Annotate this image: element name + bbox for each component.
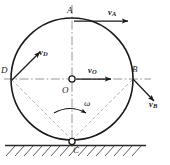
velocity-subscript-d: D	[43, 50, 48, 57]
velocity-label-d: vD	[39, 48, 48, 58]
point-label-c: C	[73, 146, 79, 155]
point-marker-o	[69, 76, 75, 82]
point-label-a: A	[67, 6, 73, 15]
rolling-wheel-diagram: A D B O C vA vO vD vB ω	[0, 0, 170, 165]
point-label-o: O	[62, 86, 69, 95]
velocity-symbol-d: v	[39, 47, 43, 57]
velocity-label-b: vB	[149, 100, 157, 110]
omega-arc-arrow	[54, 109, 86, 114]
velocity-symbol-a: v	[108, 7, 112, 17]
velocity-subscript-o: O	[92, 68, 97, 75]
point-label-d: D	[1, 66, 8, 75]
diagram-canvas	[0, 0, 170, 165]
velocity-symbol-o: v	[88, 65, 92, 75]
velocity-label-o: vO	[88, 66, 97, 76]
chord-b-c	[73, 80, 132, 139]
velocity-subscript-a: A	[112, 10, 116, 17]
angular-velocity-label: ω	[84, 99, 90, 108]
velocity-symbol-b: v	[149, 99, 153, 109]
point-label-b: B	[132, 65, 138, 74]
velocity-subscript-b: B	[153, 102, 157, 109]
velocity-label-a: vA	[108, 8, 116, 18]
point-marker-c	[69, 138, 75, 144]
velocity-vector-b	[133, 79, 154, 101]
